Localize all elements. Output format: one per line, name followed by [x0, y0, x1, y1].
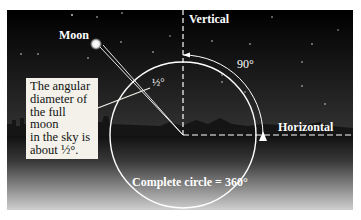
- moon-angle-label: ½°: [152, 76, 165, 88]
- callout-line: diameter of: [30, 93, 94, 106]
- vertical-label: Vertical: [189, 12, 229, 27]
- right-angle-label: 90°: [237, 57, 254, 72]
- horizontal-label: Horizontal: [278, 120, 333, 135]
- moon: [90, 38, 102, 50]
- moon-label: Moon: [59, 28, 89, 43]
- callout-box: The angular diameter of the full moon in…: [26, 78, 98, 159]
- complete-circle-label: Complete circle = 360°: [132, 175, 248, 190]
- callout-line: about ½°.: [30, 144, 94, 157]
- callout-line: The angular: [30, 80, 94, 93]
- callout-line: the full moon: [30, 106, 94, 132]
